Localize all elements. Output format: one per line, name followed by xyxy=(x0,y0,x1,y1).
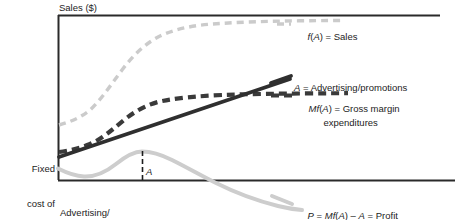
fixed-cost-line1: Fixed xyxy=(0,163,55,175)
legend-label-gross-margin: Mf(A) = Gross margin xyxy=(298,91,400,126)
legend-profit-part-1: = xyxy=(314,210,325,221)
legend-label-profit: P = Mf(A) – A = Profit xyxy=(297,198,398,220)
legend-profit-part-7: = Profit xyxy=(365,210,398,221)
optimal-a-label: A xyxy=(146,166,152,178)
legend-margin-part-0: Mf xyxy=(309,103,320,114)
legend-swatch-profit xyxy=(272,196,292,204)
legend-sales-part-3: ) = Sales xyxy=(320,31,358,42)
legend-margin-part-3: ) = Gross margin xyxy=(329,103,400,114)
x-axis-title: Advertising/ promotions ($) xyxy=(60,184,121,220)
advertising-profit-chart: Sales ($) Advertising/ promotions ($) Fi… xyxy=(0,0,455,220)
fixed-cost-annotation: Fixed cost of advertising xyxy=(0,140,55,220)
legend-label-sales: f(A) = Sales xyxy=(297,19,357,54)
fixed-cost-line2: cost of xyxy=(0,198,55,210)
advertising-expenditure-line xyxy=(59,79,290,157)
legend-profit-part-2: Mf xyxy=(325,210,336,221)
legend-profit-part-5: ) – xyxy=(345,210,359,221)
x-axis-title-line1: Advertising/ xyxy=(60,207,121,219)
y-axis-title: Sales ($) xyxy=(59,2,97,14)
